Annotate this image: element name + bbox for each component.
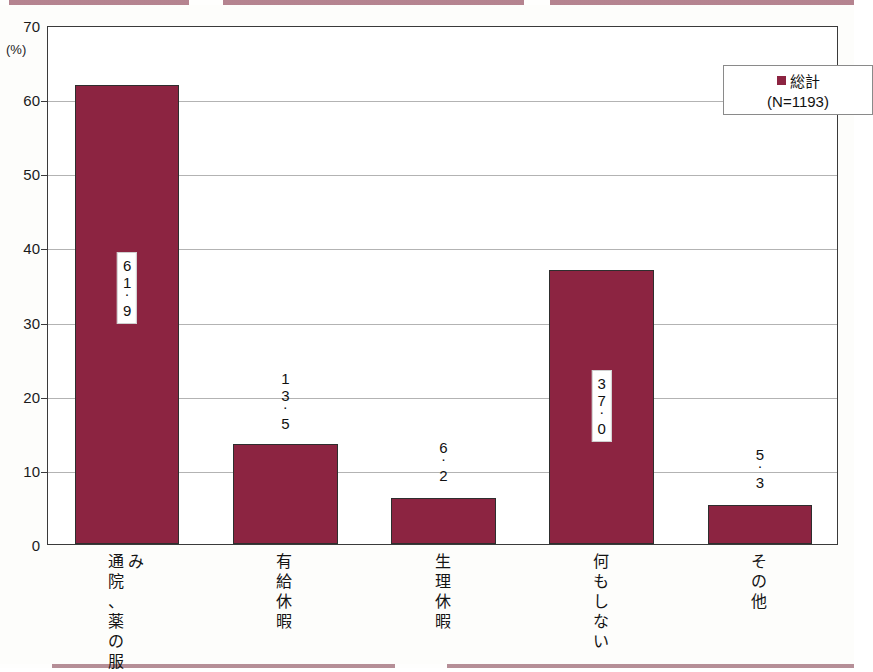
bar [708, 505, 812, 544]
bar [233, 444, 337, 544]
value-label-char: 5 [281, 415, 289, 432]
y-axis-tick-label: 70 [23, 18, 40, 35]
x-label-char: 給 [276, 572, 292, 592]
y-axis-tick-label: 0 [32, 537, 40, 554]
x-label-char: 有 [276, 552, 292, 572]
value-label-char: · [283, 404, 288, 415]
x-label-char: な [593, 612, 609, 632]
x-label-column: その他 [751, 552, 767, 612]
y-axis-tick-label: 40 [23, 240, 40, 257]
x-label-char: 通 [108, 552, 124, 572]
value-label-char: · [441, 456, 446, 467]
x-label-char: そ [751, 552, 767, 572]
chart-legend: 総計 (N=1193) [723, 65, 873, 115]
y-axis-tick [41, 175, 48, 176]
y-axis-tick-labels: 010203040506070 [0, 26, 40, 545]
x-label-column: 何もしない [593, 552, 609, 652]
scan-artifact-top [0, 0, 859, 5]
x-label-char: 、 [108, 592, 124, 612]
y-axis-tick-label: 60 [23, 92, 40, 109]
x-axis-category-labels: み通院、薬の服有給休暇生理休暇何もしないその他 [47, 552, 838, 664]
plot-area: 61·913·56·237·05·3 総計 (N=1193) [47, 26, 838, 545]
value-label-char: · [599, 409, 604, 420]
x-label-column: 通院、薬の服 [108, 552, 124, 672]
legend-entry-total: 総計 [777, 70, 820, 91]
legend-swatch-icon [777, 76, 786, 85]
x-label-char: の [108, 632, 124, 652]
x-axis-category-label: 生理休暇 [435, 552, 451, 632]
value-label-char: 3 [598, 375, 606, 392]
y-axis-tick [41, 472, 48, 473]
x-label-char: し [593, 592, 609, 612]
x-label-column: 生理休暇 [435, 552, 451, 632]
value-label-char: 0 [598, 420, 606, 437]
x-axis-category-label: 有給休暇 [276, 552, 292, 632]
y-axis-tick-label: 10 [23, 462, 40, 479]
x-label-column: 有給休暇 [276, 552, 292, 632]
y-axis-tick [41, 398, 48, 399]
x-label-char: 何 [593, 552, 609, 572]
value-label-char: 3 [756, 474, 764, 491]
y-axis-tick-label: 30 [23, 314, 40, 331]
x-label-char: も [593, 572, 609, 592]
value-label-char: · [757, 463, 762, 474]
bar-value-label: 6·2 [436, 437, 450, 486]
value-label-char: 6 [123, 257, 131, 274]
x-label-char: 院 [108, 572, 124, 592]
bar [391, 498, 495, 544]
x-axis-category-label: み通院、薬の服 [108, 552, 144, 672]
x-label-char: み [128, 552, 144, 572]
legend-label: 総計 [790, 70, 820, 91]
legend-sample-size: (N=1193) [767, 93, 829, 110]
x-label-char: 他 [751, 592, 767, 612]
value-label-char: · [125, 291, 130, 302]
x-label-char: 休 [276, 592, 292, 612]
x-label-char: 暇 [435, 612, 451, 632]
x-label-char: の [751, 572, 767, 592]
bar-value-label: 61·9 [117, 252, 137, 324]
value-label-char: 9 [123, 302, 131, 319]
bar-value-label: 5·3 [753, 444, 767, 493]
bar-value-label: 37·0 [592, 370, 612, 442]
x-label-char: 暇 [276, 612, 292, 632]
x-label-column: み [128, 552, 144, 572]
bar-value-label: 13·5 [278, 368, 292, 434]
x-label-char: 生 [435, 552, 451, 572]
y-axis-tick [41, 101, 48, 102]
y-axis-tick-label: 20 [23, 388, 40, 405]
x-label-char: 服 [108, 652, 124, 672]
y-axis-tick-label: 50 [23, 166, 40, 183]
y-axis-tick [41, 324, 48, 325]
x-axis-category-label: その他 [751, 552, 767, 612]
x-label-char: 理 [435, 572, 451, 592]
x-axis-category-label: 何もしない [593, 552, 609, 652]
x-label-char: い [593, 632, 609, 652]
y-axis-tick [41, 249, 48, 250]
x-label-char: 薬 [108, 612, 124, 632]
value-label-char: 1 [281, 370, 289, 387]
x-label-char: 休 [435, 592, 451, 612]
value-label-char: 2 [439, 467, 447, 484]
